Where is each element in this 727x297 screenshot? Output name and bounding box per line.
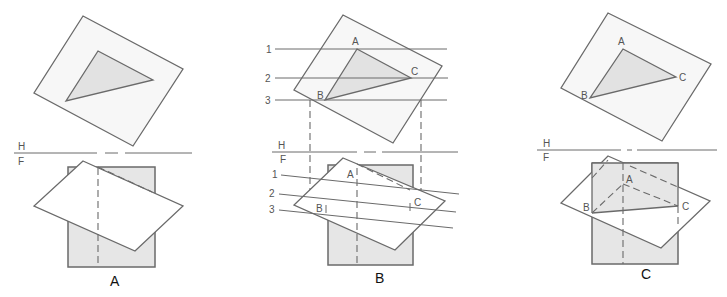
panel-b-label-c-top: C [411, 66, 418, 77]
panel-a-fold-label-h: H [18, 141, 25, 152]
panel-b-fold-label-h: H [278, 140, 285, 151]
panel-c-label-a-front: A [626, 174, 633, 185]
panel-c-label-b-front: B [583, 202, 590, 213]
panel-b-label-b-top: B [317, 90, 324, 101]
panel-c-fold-label-f: F [543, 152, 549, 163]
panel-b-label-b-front: B [316, 203, 323, 214]
panel-b-caption: B [375, 270, 384, 286]
panel-a: H F A [14, 16, 192, 289]
panel-c-visible-rect-upper [592, 163, 678, 213]
panel-c-label-b-top: B [581, 90, 588, 101]
panel-b-line-label-3-top: 3 [265, 95, 271, 106]
figure-canvas: H F A 1 2 3 A C B H F [0, 0, 727, 297]
panel-b-label-a-top: A [352, 36, 359, 47]
panel-c: A C B H F A B C C [537, 13, 717, 282]
panel-b-label-a-front: A [347, 169, 354, 180]
panel-a-fold-label-f: F [18, 156, 24, 167]
panel-b-fold-label-f: F [280, 154, 286, 165]
panel-a-caption: A [110, 273, 120, 289]
panel-c-label-c-top: C [679, 72, 686, 83]
panel-c-fold-label-h: H [543, 138, 550, 149]
panel-b-line-label-3-front: 3 [269, 204, 275, 215]
panel-c-label-a-top: A [618, 36, 625, 47]
panel-c-label-c-front: C [682, 201, 689, 212]
clipped-caption-text [255, 291, 725, 297]
panel-b-line-label-1-top: 1 [266, 44, 272, 55]
figure-intersection-of-planes: H F A 1 2 3 A C B H F [0, 0, 727, 297]
panel-b-line-label-2-front: 2 [269, 188, 275, 199]
panel-b-label-c-front: C [414, 197, 421, 208]
panel-c-caption: C [641, 266, 651, 282]
panel-b-line-label-2-top: 2 [265, 73, 271, 84]
panel-b: 1 2 3 A C B H F 1 2 3 A B C [265, 15, 459, 286]
panel-b-line-label-1-front: 1 [272, 169, 278, 180]
panel-a-front-plane [34, 161, 183, 251]
